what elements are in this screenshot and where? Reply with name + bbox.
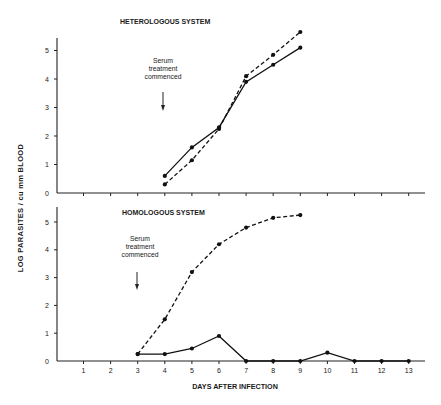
y-tick-label: 4 bbox=[45, 76, 49, 83]
data-point bbox=[380, 359, 384, 363]
series-line-dashed bbox=[165, 32, 300, 184]
data-point bbox=[298, 46, 302, 50]
x-tick-label: 4 bbox=[163, 367, 167, 374]
homologous-axes: 01234512345678910111213 bbox=[45, 207, 425, 374]
data-point bbox=[163, 317, 167, 321]
data-point bbox=[217, 334, 221, 338]
data-point bbox=[271, 53, 275, 57]
data-point bbox=[352, 359, 356, 363]
data-point bbox=[325, 351, 329, 355]
svg-text:treatment: treatment bbox=[126, 243, 155, 250]
data-point bbox=[298, 30, 302, 34]
data-point bbox=[217, 127, 221, 131]
data-point bbox=[298, 359, 302, 363]
x-tick-label: 3 bbox=[136, 367, 140, 374]
data-point bbox=[271, 359, 275, 363]
data-point bbox=[190, 270, 194, 274]
y-tick-label: 1 bbox=[45, 161, 49, 168]
y-tick-label: 4 bbox=[45, 246, 49, 253]
series-line-solid bbox=[138, 336, 409, 361]
serum-annotation-homologous: Serum treatment commenced bbox=[121, 235, 158, 290]
y-tick-label: 2 bbox=[45, 302, 49, 309]
x-tick-label: 1 bbox=[82, 367, 86, 374]
x-tick-label: 7 bbox=[244, 367, 248, 374]
svg-text:commenced: commenced bbox=[144, 73, 181, 80]
svg-text:Serum: Serum bbox=[130, 235, 150, 242]
x-tick-label: 9 bbox=[298, 367, 302, 374]
homologous-series bbox=[136, 213, 411, 363]
svg-text:Serum: Serum bbox=[153, 57, 173, 64]
data-point bbox=[298, 213, 302, 217]
data-point bbox=[163, 174, 167, 178]
data-point bbox=[190, 145, 194, 149]
x-tick-label: 12 bbox=[378, 367, 386, 374]
svg-text:treatment: treatment bbox=[149, 65, 178, 72]
y-tick-label: 5 bbox=[45, 47, 49, 54]
x-tick-label: 6 bbox=[217, 367, 221, 374]
data-point bbox=[190, 158, 194, 162]
y-axis-label: LOG PARASITES / cu mm BLOOD bbox=[16, 144, 25, 273]
data-point bbox=[190, 346, 194, 350]
heterologous-axes: 012345 bbox=[45, 38, 425, 197]
data-point bbox=[163, 352, 167, 356]
heterologous-series bbox=[163, 30, 303, 187]
x-axis-label: DAYS AFTER INFECTION bbox=[192, 382, 278, 391]
y-tick-label: 5 bbox=[45, 219, 49, 226]
data-point bbox=[271, 216, 275, 220]
data-point bbox=[271, 63, 275, 67]
x-tick-label: 8 bbox=[271, 367, 275, 374]
homologous-panel: HOMOLOGOUS SYSTEM 0123451234567891011121… bbox=[45, 207, 425, 374]
data-point bbox=[163, 182, 167, 186]
y-tick-label: 2 bbox=[45, 133, 49, 140]
data-point bbox=[244, 359, 248, 363]
series-line-dashed bbox=[138, 215, 301, 354]
x-tick-label: 11 bbox=[351, 367, 358, 374]
serum-annotation-heterologous: Serum treatment commenced bbox=[144, 57, 181, 111]
y-tick-label: 3 bbox=[45, 274, 49, 281]
y-tick-label: 3 bbox=[45, 104, 49, 111]
x-tick-label: 10 bbox=[324, 367, 332, 374]
series-line-solid bbox=[165, 48, 300, 176]
y-tick-label: 0 bbox=[45, 190, 49, 197]
data-point bbox=[217, 242, 221, 246]
data-point bbox=[244, 74, 248, 78]
heterologous-panel: HETEROLOGOUS SYSTEM 012345 Serum treatme… bbox=[45, 18, 425, 197]
panel-title-homologous: HOMOLOGOUS SYSTEM bbox=[122, 209, 205, 216]
x-tick-label: 13 bbox=[405, 367, 413, 374]
svg-text:commenced: commenced bbox=[121, 251, 158, 258]
y-tick-label: 1 bbox=[45, 330, 49, 337]
data-point bbox=[407, 359, 411, 363]
x-tick-label: 2 bbox=[109, 367, 113, 374]
y-tick-label: 0 bbox=[45, 358, 49, 365]
x-tick-label: 5 bbox=[190, 367, 194, 374]
data-point bbox=[136, 352, 140, 356]
figure: LOG PARASITES / cu mm BLOOD HETEROLOGOUS… bbox=[0, 0, 441, 405]
data-point bbox=[244, 225, 248, 229]
panel-title-heterologous: HETEROLOGOUS SYSTEM bbox=[120, 18, 210, 25]
